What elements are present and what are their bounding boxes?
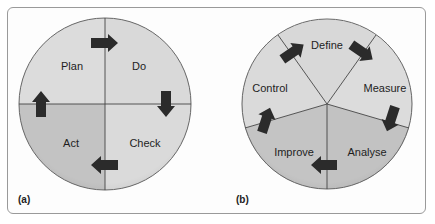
- cycle-diagrams: Plan Do Check Act: [0, 0, 435, 224]
- label-plan: Plan: [61, 60, 83, 72]
- label-analyse: Analyse: [347, 146, 386, 158]
- panel-label-a: (a): [18, 194, 30, 205]
- pdca-circle: Plan Do Check Act: [19, 18, 191, 190]
- label-define: Define: [311, 39, 343, 51]
- dmaic-circle: Define Measure Analyse Improve Control: [242, 19, 413, 189]
- label-act: Act: [63, 137, 79, 149]
- panel-label-b: (b): [236, 194, 249, 205]
- label-check: Check: [129, 137, 161, 149]
- label-measure: Measure: [364, 82, 407, 94]
- label-control: Control: [252, 82, 287, 94]
- label-improve: Improve: [274, 146, 314, 158]
- label-do: Do: [132, 60, 146, 72]
